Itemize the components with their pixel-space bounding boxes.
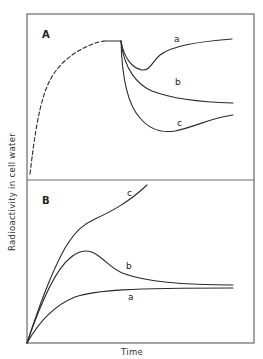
y-axis-label: Radioactivity in cell water bbox=[7, 133, 17, 251]
panel-a-curve-a-label: a bbox=[174, 34, 180, 44]
panel-a-label: A bbox=[42, 29, 50, 40]
panel-b-curve-c-label: c bbox=[127, 188, 132, 198]
panel-b: B c b a bbox=[27, 185, 233, 343]
panel-b-curve-b-label: b bbox=[126, 261, 132, 271]
panel-a-curve-b bbox=[121, 41, 233, 103]
panel-a-uptake-curve bbox=[30, 41, 104, 174]
x-axis-label: Time bbox=[120, 347, 143, 357]
panel-a-curve-c-label: c bbox=[177, 118, 182, 128]
panel-a-curve-b-label: b bbox=[175, 77, 181, 87]
chart: A a b c B c b a Time Radioactivity in ce… bbox=[0, 0, 263, 359]
panel-b-label: B bbox=[42, 195, 50, 206]
panel-b-curve-a-label: a bbox=[128, 292, 134, 302]
plot-frame bbox=[27, 14, 254, 343]
panel-a: A a b c bbox=[30, 29, 233, 174]
